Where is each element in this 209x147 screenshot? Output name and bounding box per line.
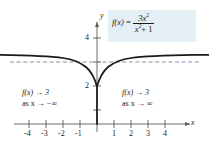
formula-numerator: 3x2 bbox=[133, 13, 155, 23]
annotation-left-limit: f(x) → 3 as x → −∞ bbox=[22, 88, 57, 110]
annotation-left-line1: f(x) → 3 bbox=[22, 88, 49, 97]
x-tick-label--2: -2 bbox=[58, 130, 65, 138]
formula-equals: = bbox=[126, 17, 131, 27]
x-tick-label-1: 1 bbox=[112, 130, 116, 138]
x-tick-label-2: 2 bbox=[129, 130, 133, 138]
annotation-left-line2: as x → −∞ bbox=[22, 99, 57, 110]
formula-denominator: x2+ 1 bbox=[133, 23, 155, 34]
formula-fraction: 3x2 x2+ 1 bbox=[133, 13, 155, 34]
y-axis-label: y bbox=[100, 12, 104, 20]
formula-lhs: f(x) bbox=[112, 17, 124, 27]
annotation-right-limit: f(x) → 3 as x → ∞ bbox=[122, 88, 152, 110]
figure-graph-of-rational-function: f(x) = 3x2 x2+ 1 x y -4 -3 -2 -1 1 2 3 4… bbox=[0, 0, 209, 147]
y-axis-arrow bbox=[95, 22, 99, 27]
x-tick-label--3: -3 bbox=[41, 130, 48, 138]
x-tick-label-4: 4 bbox=[163, 130, 167, 138]
x-axis-label: x bbox=[191, 119, 195, 127]
y-tick-label-2: 2 bbox=[85, 82, 89, 90]
x-axis-arrow bbox=[185, 122, 190, 126]
x-tick-label--4: -4 bbox=[24, 130, 31, 138]
y-tick-label-4: 4 bbox=[85, 34, 89, 42]
x-tick-label--1: -1 bbox=[75, 130, 82, 138]
annotation-right-line2: as x → ∞ bbox=[122, 99, 152, 110]
x-tick-label-3: 3 bbox=[146, 130, 150, 138]
annotation-right-line1: f(x) → 3 bbox=[122, 88, 149, 97]
function-formula: f(x) = 3x2 x2+ 1 bbox=[112, 13, 198, 41]
